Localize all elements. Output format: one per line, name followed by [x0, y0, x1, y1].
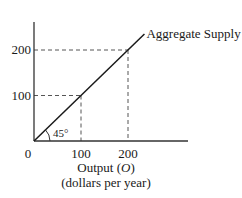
x-tick-label: 100 — [71, 146, 91, 161]
angle-label: 45° — [53, 127, 68, 139]
x-axis-label: Output (O) — [77, 160, 134, 175]
y-tick-label: 200 — [12, 42, 32, 57]
x-tick-label: 200 — [118, 146, 138, 161]
x-axis-label-main: Output ( — [77, 160, 121, 175]
angle-arc — [45, 130, 50, 141]
x-axis-label-close: ) — [130, 160, 134, 175]
y-tick-label: 100 — [12, 88, 32, 103]
aggregate-supply-chart: 0100200100200 45° Aggregate Supply Outpu… — [0, 0, 242, 198]
x-axis-sublabel: (dollars per year) — [61, 175, 151, 190]
series-label: Aggregate Supply — [146, 26, 241, 41]
x-tick-label: 0 — [25, 146, 32, 161]
